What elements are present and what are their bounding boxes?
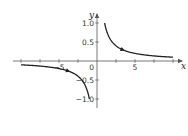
right-branch-curve [105,23,173,57]
y-axis-arrow-icon [95,13,99,18]
function-graph: xy−5051.00.5−0.5−1.0 [0,0,188,136]
y-tick-label: 0.5 [82,38,94,47]
y-tick-label: 1.0 [82,19,94,28]
x-tick-label: 5 [133,63,138,72]
direction-arrow-icon [65,68,70,72]
x-axis-label: x [181,61,186,71]
x-tick-label: 0 [89,63,94,72]
axes [13,13,183,108]
y-tick-label: −1.0 [76,95,94,104]
